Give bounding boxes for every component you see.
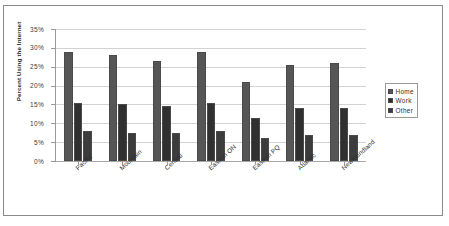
bar-home-mountain — [109, 55, 118, 161]
y-axis-tick — [51, 86, 56, 87]
legend-item-label: Work — [396, 97, 412, 104]
y-axis-tick-label: 5% — [4, 139, 44, 146]
bar-group — [286, 29, 314, 161]
bar-group — [330, 29, 358, 161]
y-axis-tick — [51, 123, 56, 124]
x-axis-tick — [78, 161, 79, 165]
plot-area — [56, 29, 366, 161]
bar-group — [153, 29, 181, 161]
y-axis-tick-label: 35% — [4, 26, 44, 33]
bar-home-central — [153, 61, 162, 161]
y-axis-tick — [51, 48, 56, 49]
bar-home-pacific — [64, 52, 73, 161]
x-axis-tick — [344, 161, 345, 165]
chart-legend: HomeWorkOther — [385, 83, 418, 118]
bar-group — [242, 29, 270, 161]
y-axis-tick-label: 25% — [4, 63, 44, 70]
legend-item-home[interactable]: Home — [388, 87, 414, 96]
legend-swatch-icon — [388, 108, 393, 113]
legend-item-work[interactable]: Work — [388, 96, 414, 105]
y-axis-tick-label: 15% — [4, 101, 44, 108]
y-axis-tick — [51, 104, 56, 105]
bar-home-eastern-pq — [242, 82, 251, 161]
y-axis-tick — [51, 29, 56, 30]
bar-home-atlantic — [286, 65, 295, 161]
y-axis-tick — [51, 142, 56, 143]
legend-swatch-icon — [388, 89, 393, 94]
y-axis-tick — [51, 161, 56, 162]
x-axis-tick — [255, 161, 256, 165]
bar-work-pacific — [74, 103, 83, 161]
bar-work-central — [162, 106, 171, 161]
y-axis-tick-label: 30% — [4, 44, 44, 51]
bar-work-eastern-pq — [251, 118, 260, 161]
legend-item-label: Other — [396, 107, 414, 114]
legend-item-label: Home — [396, 88, 414, 95]
bar-work-mountain — [118, 104, 127, 161]
y-axis-tick-label: 0% — [4, 158, 44, 165]
x-axis-tick — [300, 161, 301, 165]
bar-home-eastern-on — [197, 52, 206, 161]
x-axis-tick — [211, 161, 212, 165]
legend-swatch-icon — [388, 98, 393, 103]
x-axis-tick — [122, 161, 123, 165]
x-axis-tick — [167, 161, 168, 165]
y-axis-tick — [51, 67, 56, 68]
legend-item-other[interactable]: Other — [388, 106, 414, 115]
bar-work-eastern-on — [207, 103, 216, 161]
bar-work-atlantic — [295, 108, 304, 161]
bar-group — [64, 29, 92, 161]
bar-work-newfoundland — [340, 108, 349, 161]
bar-home-newfoundland — [330, 63, 339, 161]
y-axis-tick-label: 10% — [4, 120, 44, 127]
y-axis-tick-label: 20% — [4, 82, 44, 89]
chart-frame: Percent Using the Internet 35%30%25%20%1… — [3, 5, 443, 216]
bar-group — [109, 29, 137, 161]
bar-group — [197, 29, 225, 161]
